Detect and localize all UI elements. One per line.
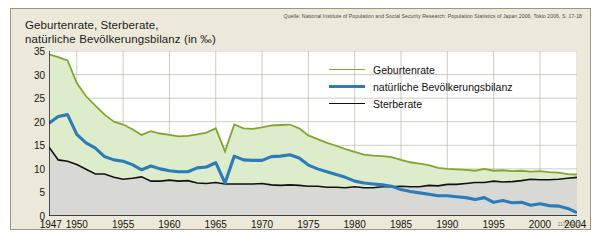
chart-figure: Geburtenrate, Sterberate, natürliche Bev… xyxy=(10,8,591,230)
legend-item-birth-rate: Geburtenrate xyxy=(329,61,513,78)
legend-label-death-rate: Sterberate xyxy=(373,98,422,110)
source-attribution: Quelle: National Institute of Population… xyxy=(284,13,582,19)
y-tick-label: 15 xyxy=(34,140,45,151)
x-tick-label: 2004 xyxy=(564,219,586,230)
y-tick-label: 30 xyxy=(34,69,45,80)
legend-label-natural-balance: natürliche Bevölkerungsbilanz xyxy=(373,81,513,93)
x-tick-label: 1995 xyxy=(483,219,505,230)
chart-title: Geburtenrate, Sterberate, natürliche Bev… xyxy=(25,19,216,46)
y-tick-label: 25 xyxy=(34,93,45,104)
legend-swatch-natural-balance xyxy=(329,85,365,88)
legend-swatch-death-rate xyxy=(329,103,365,104)
x-tick-label: 1965 xyxy=(205,219,227,230)
legend-label-birth-rate: Geburtenrate xyxy=(373,64,435,76)
y-tick-label: 5 xyxy=(39,187,45,198)
x-tick-label: 1990 xyxy=(436,219,458,230)
y-tick-label: 35 xyxy=(34,46,45,57)
x-tick-label: 2000 xyxy=(529,219,551,230)
x-tick-label: 1960 xyxy=(158,219,180,230)
legend-swatch-birth-rate xyxy=(329,69,365,70)
legend-item-death-rate: Sterberate xyxy=(329,95,513,112)
x-tick-label: 1975 xyxy=(297,219,319,230)
y-tick-label: 20 xyxy=(34,116,45,127)
x-tick-label: 1950 xyxy=(66,219,88,230)
x-tick-label: 1947 xyxy=(40,219,62,230)
x-tick-label: 1970 xyxy=(251,219,273,230)
legend-item-natural-balance: natürliche Bevölkerungsbilanz xyxy=(329,78,513,95)
chart-legend: Geburtenrate natürliche Bevölkerungsbila… xyxy=(329,61,513,112)
x-tick-label: 1985 xyxy=(390,219,412,230)
y-tick-label: 10 xyxy=(34,163,45,174)
x-tick-label: 1980 xyxy=(344,219,366,230)
x-tick-label: 1955 xyxy=(112,219,134,230)
